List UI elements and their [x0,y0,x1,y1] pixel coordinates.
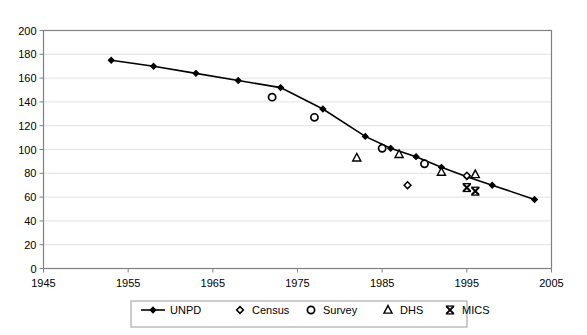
data-point-unpd [193,70,199,76]
legend-label-survey: Survey [323,304,358,316]
y-axis-tick-label: 100 [18,144,36,156]
legend-item-survey[interactable]: Survey [307,304,357,316]
y-axis-tick-label: 120 [18,120,36,132]
x-axis-tick-label: 1975 [285,277,309,289]
legend-marker-dhs [384,306,392,314]
legend-item-unpd[interactable]: UNPD [141,304,201,316]
x-axis-tick-label: 1995 [455,277,479,289]
y-axis-tick-label: 200 [18,25,36,37]
data-series [108,57,537,202]
legend-item-census[interactable]: Census [237,304,290,316]
series-unpd [108,57,537,202]
data-point-unpd [108,57,114,63]
chart-legend: UNPDCensusSurveyDHSMICS [131,301,490,327]
y-axis-tick-label: 140 [18,96,36,108]
data-point-unpd [388,145,394,151]
x-axis-tick-label: 1965 [201,277,225,289]
line-chart: 020406080100120140160180200 194519551965… [0,0,587,335]
legend-label-mics: MICS [462,304,490,316]
data-point-census [404,182,411,189]
y-axis-tick-label: 80 [24,167,36,179]
y-axis-tick-label: 160 [18,72,36,84]
legend-label-unpd: UNPD [170,304,201,316]
legend-marker-unpd [150,307,156,313]
y-axis-tick-label: 20 [24,239,36,251]
grid-lines [44,31,552,245]
y-axis-tick-label: 0 [30,263,36,275]
series-line-unpd [111,60,534,199]
chart-container: 020406080100120140160180200 194519551965… [0,0,587,335]
x-axis-tick-label: 1945 [31,277,55,289]
y-axis-tick-label: 40 [24,215,36,227]
data-point-unpd [278,85,284,91]
x-axis-labels: 1945195519651975198519952005 [31,277,563,289]
data-point-mics [463,184,471,192]
x-axis-tick-label: 1955 [116,277,140,289]
legend-label-dhs: DHS [400,304,423,316]
legend-marker-census [237,307,244,314]
x-axis-tick-label: 1985 [370,277,394,289]
x-axis-tick-label: 2005 [539,277,563,289]
y-axis-tick-label: 60 [24,191,36,203]
series-survey [269,94,429,168]
legend-item-mics[interactable]: MICS [446,304,490,316]
data-point-mics [471,187,479,195]
legend-label-census: Census [252,304,290,316]
data-point-unpd [489,182,495,188]
y-axis-tick-label: 180 [18,48,36,60]
legend-marker-survey [307,306,314,313]
data-point-survey [311,114,318,121]
data-point-survey [269,94,276,101]
legend-marker-mics [446,306,454,314]
y-axis-labels: 020406080100120140160180200 [18,25,36,275]
data-point-survey [421,160,428,167]
series-mics [463,184,480,195]
x-axis-tick-marks [44,269,552,273]
data-point-survey [379,145,386,152]
data-point-dhs [471,170,479,178]
data-point-unpd [151,63,157,69]
data-point-unpd [413,154,419,160]
legend-item-dhs[interactable]: DHS [384,304,423,316]
data-point-dhs [353,153,361,161]
